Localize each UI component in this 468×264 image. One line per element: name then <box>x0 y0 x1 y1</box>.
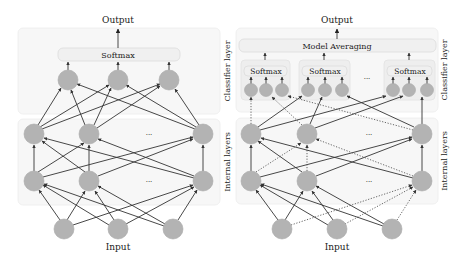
input-label: Input <box>325 242 350 252</box>
input-node <box>108 219 128 239</box>
classifier-node <box>159 70 179 90</box>
internal-node <box>79 171 99 191</box>
classifier-layer-label: Classifier layer <box>440 39 449 100</box>
classifier-node <box>421 84 434 97</box>
internal-node <box>24 124 44 144</box>
input-node <box>327 219 347 239</box>
model-averaging-label: Model Averaging <box>302 42 371 51</box>
output-label: Output <box>102 15 134 25</box>
classifier-node <box>403 84 416 97</box>
input-node <box>272 219 292 239</box>
single-network-diagram: Output Softmax Input Classifier layer In… <box>18 15 232 252</box>
neural-network-diagram: Output Softmax Input Classifier layer In… <box>0 0 468 264</box>
internal-layers-label: Internal layers <box>440 131 449 191</box>
ellipsis: ··· <box>366 131 373 139</box>
internal-node <box>412 124 432 144</box>
input-node <box>163 219 183 239</box>
ellipsis: ··· <box>146 131 153 139</box>
internal-node <box>193 171 213 191</box>
internal-layers-box <box>236 118 438 204</box>
classifier-node <box>387 84 400 97</box>
internal-node <box>297 171 317 191</box>
input-node <box>382 219 402 239</box>
internal-layers-label: Internal layers <box>223 132 232 192</box>
internal-node <box>241 171 261 191</box>
classifier-node <box>260 84 273 97</box>
softmax-label: Softmax <box>309 67 341 76</box>
softmax-label: Softmax <box>101 51 135 60</box>
classifier-node <box>319 84 332 97</box>
softmax-label: Softmax <box>250 67 282 76</box>
softmax-label: Softmax <box>394 67 426 76</box>
ensemble-network-diagram: Output Model Averaging Softmax Softmax S… <box>236 15 449 252</box>
input-label: Input <box>106 242 131 252</box>
classifier-node <box>58 70 78 90</box>
internal-layers-box <box>18 119 220 205</box>
classifier-node <box>276 84 289 97</box>
ellipsis: ··· <box>366 178 373 186</box>
internal-node <box>79 124 99 144</box>
classifier-node <box>245 84 258 97</box>
ellipsis: ··· <box>146 178 153 186</box>
internal-node <box>412 171 432 191</box>
internal-node <box>241 124 261 144</box>
output-label: Output <box>321 15 353 25</box>
classifier-layer-label: Classifier layer <box>223 40 232 101</box>
internal-node <box>24 171 44 191</box>
classifier-node <box>336 84 349 97</box>
classifier-node <box>302 84 315 97</box>
ellipsis: ··· <box>364 75 371 83</box>
classifier-node <box>108 70 128 90</box>
internal-node <box>193 124 213 144</box>
internal-node <box>297 124 317 144</box>
input-node <box>54 219 74 239</box>
